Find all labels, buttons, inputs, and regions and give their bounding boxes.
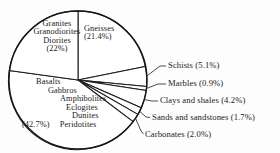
slice-label-schists: Schists (5.1%): [168, 61, 220, 70]
gneisses-percent: (21.4%): [84, 33, 146, 41]
basalts-percent-row: (42.7%) Peridotites: [22, 121, 137, 130]
leader-line-clays: [144, 100, 158, 102]
slice-label-basalts-group: Basalts Gabbros Amphibolites Eclogites D…: [22, 78, 137, 129]
slice-label-marbles: Marbles (0.9%): [168, 79, 223, 88]
slice-label-clays-and-shales: Clays and shales (4.2%): [160, 96, 245, 105]
leader-line-marbles: [147, 84, 167, 89]
leader-line-schists: [146, 66, 166, 77]
pie-chart-figure: Granites Granodiorites Diorites (22%) Gn…: [0, 0, 280, 153]
slice-label-carbonates: Carbonates (2.0%): [145, 130, 211, 139]
basalts-line-1: Basalts: [22, 78, 137, 87]
leader-line-sands: [140, 111, 150, 117]
basalts-line-6: Peridotites: [60, 120, 97, 129]
slice-label-gneisses: Gneisses (21.4%): [84, 25, 146, 42]
granites-percent: (22%): [17, 45, 97, 53]
slice-label-sands-and-sandstones: Sands and sandstones (1.7%): [152, 113, 255, 122]
basalts-percent: (42.7%): [22, 120, 50, 129]
